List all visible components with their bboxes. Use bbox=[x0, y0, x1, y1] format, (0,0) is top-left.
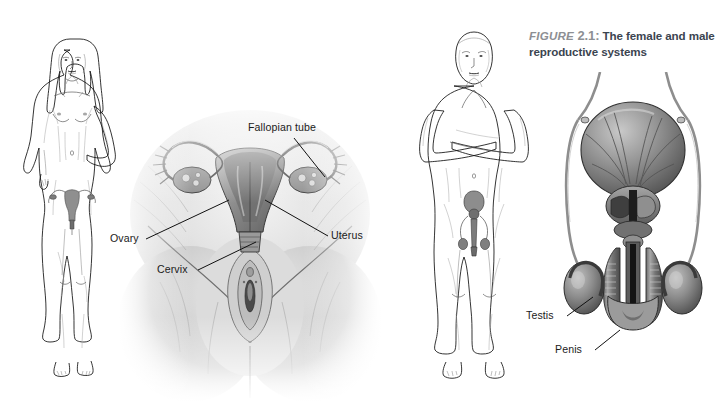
label-fallopian-tube: Fallopian tube bbox=[248, 121, 316, 133]
female-reproductive-anatomy-illustration bbox=[118, 96, 382, 402]
label-testis: Testis bbox=[526, 309, 554, 321]
label-uterus: Uterus bbox=[331, 229, 363, 241]
caption-figure-number: 2.1: bbox=[577, 28, 599, 43]
label-ovary: Ovary bbox=[110, 232, 139, 244]
male-reproductive-anatomy-illustration bbox=[548, 72, 718, 334]
label-cervix: Cervix bbox=[157, 263, 188, 275]
male-whole-body-illustration bbox=[404, 18, 544, 390]
figure-container: Fallopian tube Ovary Cervix Uterus Testi… bbox=[0, 0, 720, 402]
caption-figure-word: FIGURE bbox=[529, 29, 574, 42]
figure-caption: FIGURE 2.1: The female and male reproduc… bbox=[529, 28, 719, 59]
label-penis: Penis bbox=[555, 343, 582, 355]
